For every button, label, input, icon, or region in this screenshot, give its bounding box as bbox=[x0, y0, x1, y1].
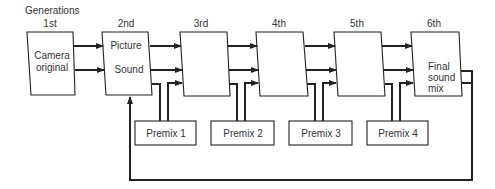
generation-box-4th bbox=[256, 32, 308, 96]
sound-label: Sound bbox=[115, 64, 144, 75]
generation-label-5: 5th bbox=[350, 18, 364, 29]
final-sound-mix-line1b: Final bbox=[428, 61, 450, 72]
camera-original-line1: Camera bbox=[34, 50, 70, 61]
generation-label-1: 1st bbox=[43, 18, 57, 29]
diagram-title: Generations bbox=[25, 5, 79, 16]
generation-box-3rd bbox=[180, 32, 230, 96]
generation-label-2: 2nd bbox=[118, 18, 135, 29]
final-sound-mix-line3: mix bbox=[428, 83, 444, 94]
final-sound-mix-line2: sound bbox=[428, 72, 455, 83]
premix-3-label: Premix 3 bbox=[301, 128, 341, 139]
premix-2-label: Premix 2 bbox=[223, 128, 263, 139]
generations-diagram: Generations 1st 2nd 3rd 4th 5th 6th Came… bbox=[0, 0, 495, 189]
premix-4-label: Premix 4 bbox=[378, 128, 418, 139]
generation-label-4: 4th bbox=[272, 18, 286, 29]
generation-label-3: 3rd bbox=[194, 18, 208, 29]
picture-label: Picture bbox=[110, 40, 142, 51]
generation-box-5th bbox=[334, 32, 385, 96]
premix-1-label: Premix 1 bbox=[146, 128, 186, 139]
camera-original-line2: original bbox=[36, 62, 68, 73]
generation-label-6: 6th bbox=[427, 18, 441, 29]
